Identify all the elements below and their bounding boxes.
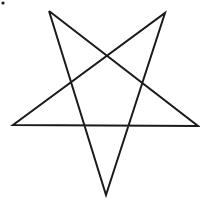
corner-dot xyxy=(1,1,4,4)
pentagram-star-icon xyxy=(13,11,198,195)
pentagram-figure xyxy=(0,0,200,201)
